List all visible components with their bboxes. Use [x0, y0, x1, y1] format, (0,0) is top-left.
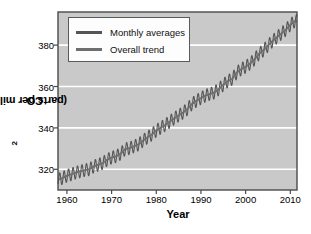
chart-legend: Monthly averages Overall trend	[68, 17, 190, 62]
y-tick-label: 380	[28, 40, 54, 51]
x-tick-label: 2000	[226, 194, 266, 205]
x-axis-title: Year	[58, 208, 298, 220]
legend-swatch-monthly-averages	[76, 31, 102, 34]
x-tick-label: 1980	[136, 194, 176, 205]
x-tick-label: 1970	[92, 194, 132, 205]
x-tick-label: 1990	[181, 194, 221, 205]
y-tick-label: 360	[28, 81, 54, 92]
legend-item-overall-trend: Overall trend	[76, 42, 164, 56]
x-tick-label: 2010	[270, 194, 310, 205]
x-tick-label: 1960	[47, 194, 87, 205]
legend-label-monthly-averages: Monthly averages	[110, 27, 185, 38]
y-tick-label: 340	[28, 122, 54, 133]
y-tick-label: 320	[28, 164, 54, 175]
legend-item-monthly-averages: Monthly averages	[76, 25, 185, 39]
chart-figure: 320340360380 196019701980199020002010 CO…	[0, 0, 311, 234]
legend-label-overall-trend: Overall trend	[110, 44, 164, 55]
legend-swatch-overall-trend	[76, 48, 102, 51]
